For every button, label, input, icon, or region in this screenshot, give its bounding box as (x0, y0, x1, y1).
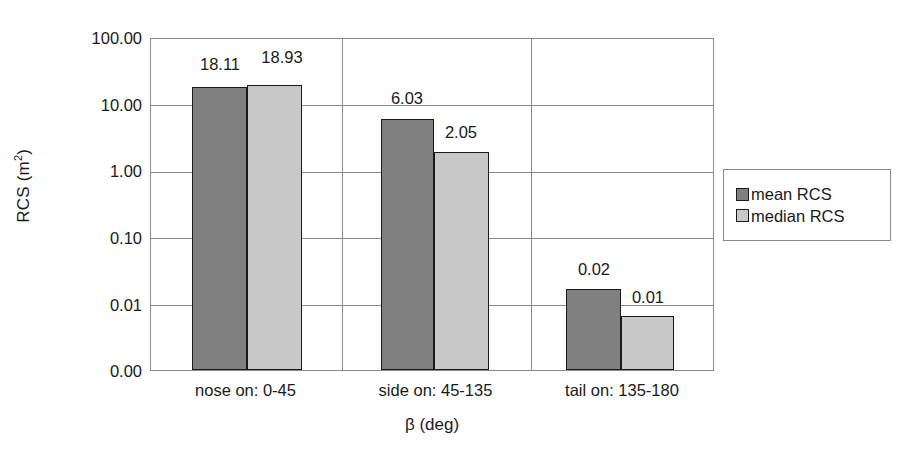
bar-value-label-median-nose-on: 18.93 (239, 49, 325, 66)
legend-label: median RCS (751, 208, 845, 225)
rcs-bar-chart: RCS (m2) 100.00 10.00 1.00 0.10 0.01 0.0… (0, 0, 917, 459)
legend-label: mean RCS (751, 186, 832, 203)
x-category-label-side-on: side on: 45-135 (341, 382, 530, 399)
y-tick-label: 0.10 (58, 230, 142, 247)
bar-value-label-mean-tail-on: 0.02 (551, 261, 637, 278)
bar-value-label-mean-side-on: 6.03 (364, 90, 450, 107)
x-axis-category-labels: nose on: 0-45 side on: 45-135 tail on: 1… (150, 382, 714, 406)
bar-median-nose-on[interactable] (247, 85, 302, 370)
bar-median-side-on[interactable] (434, 152, 489, 370)
x-category-label-tail-on: tail on: 135-180 (530, 382, 714, 399)
bar-median-tail-on[interactable] (621, 316, 674, 370)
y-axis-title-close: ) (14, 149, 33, 155)
y-tick-label: 100.00 (58, 30, 142, 47)
bar-mean-nose-on[interactable] (192, 87, 247, 370)
legend-item-mean-rcs[interactable]: mean RCS (736, 186, 890, 203)
y-tick-label: 1.00 (58, 163, 142, 180)
x-axis-title: β (deg) (150, 415, 714, 435)
y-axis-tick-labels: 100.00 10.00 1.00 0.10 0.01 0.00 (54, 0, 142, 459)
legend: mean RCS median RCS (723, 169, 891, 241)
bar-mean-side-on[interactable] (381, 119, 434, 370)
x-category-label-nose-on: nose on: 0-45 (150, 382, 341, 399)
y-tick-label: 0.01 (58, 297, 142, 314)
category-divider (342, 39, 343, 370)
category-divider (531, 39, 532, 370)
y-tick-label: 0.00 (58, 363, 142, 380)
legend-swatch-icon (736, 188, 749, 201)
legend-swatch-icon (736, 209, 749, 222)
y-axis-title-exponent: 2 (12, 155, 24, 161)
y-axis-title: RCS (m2) (12, 116, 34, 256)
legend-item-median-rcs[interactable]: median RCS (736, 208, 890, 225)
y-axis-title-base: RCS (m (14, 161, 33, 223)
y-tick-label: 10.00 (58, 97, 142, 114)
plot-area: 18.11 18.93 6.03 2.05 0.02 0.01 (150, 38, 714, 371)
bar-value-label-median-side-on: 2.05 (418, 124, 504, 141)
bar-value-label-median-tail-on: 0.01 (605, 289, 691, 306)
